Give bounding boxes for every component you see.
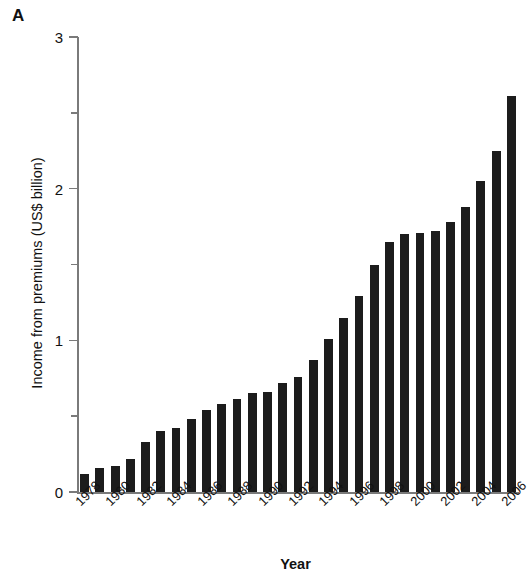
bar xyxy=(355,296,364,492)
x-tick-label: 2004 xyxy=(469,479,499,509)
x-tick-label: 1996 xyxy=(347,479,377,509)
y-tick-minor xyxy=(71,415,78,417)
x-axis-title: Year xyxy=(0,556,531,572)
bar xyxy=(385,242,394,492)
y-tick-label: 2 xyxy=(55,181,63,196)
y-tick-major xyxy=(69,188,78,190)
bar xyxy=(263,392,272,492)
x-tick-label: 2000 xyxy=(408,479,438,509)
y-axis-title: Income from premiums (US$ billion) xyxy=(29,73,45,473)
bar xyxy=(416,233,425,492)
bar xyxy=(278,383,287,492)
bar xyxy=(507,96,516,492)
bar xyxy=(324,339,333,492)
bar xyxy=(370,265,379,493)
bar xyxy=(446,222,455,492)
bar xyxy=(400,234,409,492)
x-tick-label: 2006 xyxy=(499,479,529,509)
bar xyxy=(339,318,348,492)
x-tick-label: 1988 xyxy=(225,479,255,509)
x-tick-label: 1980 xyxy=(103,479,133,509)
y-tick-major xyxy=(69,340,78,342)
x-tick-label: 1986 xyxy=(195,479,225,509)
y-tick-label: 0 xyxy=(55,485,63,500)
y-tick-minor xyxy=(71,264,78,266)
bar xyxy=(202,410,211,492)
bar xyxy=(476,181,485,492)
x-tick-label: 1984 xyxy=(164,479,194,509)
x-tick-label: 1992 xyxy=(286,479,316,509)
plot-area: 0123 19781980198219841986198819901992199… xyxy=(77,37,519,492)
x-tick-label: 1990 xyxy=(256,479,286,509)
bar xyxy=(217,404,226,492)
y-tick-label: 3 xyxy=(55,30,63,45)
y-tick-label: 1 xyxy=(55,333,63,348)
bar xyxy=(431,231,440,492)
x-tick-label: 1982 xyxy=(134,479,164,509)
bar xyxy=(309,360,318,492)
panel-letter: A xyxy=(12,6,25,26)
bar xyxy=(187,419,196,492)
y-tick-major xyxy=(69,36,78,38)
bar xyxy=(294,377,303,492)
bar xyxy=(492,151,501,492)
bar xyxy=(233,399,242,492)
bar xyxy=(461,207,470,492)
y-tick-minor xyxy=(71,112,78,114)
bar xyxy=(248,393,257,492)
figure-panel-a: A Income from premiums (US$ billion) 012… xyxy=(0,0,531,583)
